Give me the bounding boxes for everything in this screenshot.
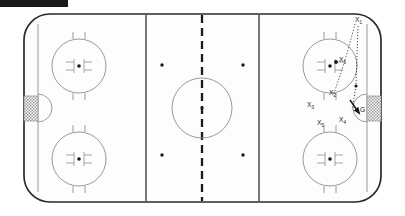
- player-dot-x2: [354, 84, 357, 87]
- left-net: [24, 96, 38, 121]
- neutral-dot-bottom-left: [160, 153, 163, 156]
- rink-diagram-stage: X1 X5 X2 X3 X4 X5 G: [0, 0, 405, 216]
- neutral-dot-top-left: [160, 63, 163, 66]
- center-faceoff-dot: [200, 106, 203, 109]
- goalie-label-g: G: [360, 106, 365, 113]
- neutral-dot-top-right: [241, 63, 244, 66]
- right-net: [367, 96, 381, 121]
- hockey-rink-svg: X1 X5 X2 X3 X4 X5 G: [0, 0, 405, 216]
- player-dot-x5-top: [334, 60, 338, 64]
- neutral-dot-bottom-right: [241, 153, 244, 156]
